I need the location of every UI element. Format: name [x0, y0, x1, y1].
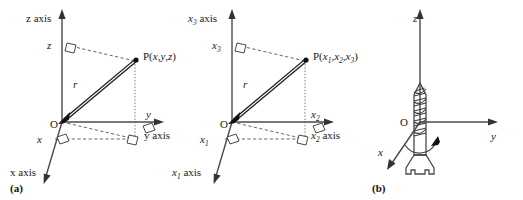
y-axis-arrowhead: [488, 118, 498, 125]
panel-b-screw-rule: z y x O (b): [358, 0, 523, 200]
figure-container: z axis z O r y y axis x x axis P(x,y,z) …: [0, 0, 523, 200]
coord-x1-label: x1: [199, 133, 209, 148]
panel-a-cartesian-letter: z axis z O r y y axis x x axis P(x,y,z) …: [0, 0, 180, 200]
r-vector-inner-highlight: [235, 62, 304, 120]
coord-y-label: y: [145, 108, 151, 120]
coord-z-label: z: [46, 39, 52, 51]
right-angle-marker-xy: [127, 135, 138, 145]
rotation-arrowhead: [431, 136, 440, 146]
x-axis-line: [46, 122, 62, 176]
right-angle-marker-x1: [227, 134, 239, 144]
x1-axis-arrowhead: [214, 174, 221, 184]
x1-axis-line: [216, 122, 232, 176]
r-vector-label: r: [243, 78, 248, 90]
y-axis-label: y axis: [144, 129, 170, 141]
dash-origin-to-xy-projection: [62, 122, 135, 139]
right-angle-marker-x3: [235, 43, 246, 53]
x2-axis-label: x2 axis: [310, 129, 340, 144]
x-axis-line: [392, 122, 420, 163]
screw-head-base: [406, 155, 434, 174]
x3-axis-label: x3 axis: [187, 12, 217, 27]
point-p-marker: [133, 57, 138, 62]
coord-x-label: x: [36, 133, 42, 145]
z-axis-arrowhead: [58, 9, 65, 19]
y-axis-arrowhead: [154, 118, 164, 125]
right-angle-marker-z: [65, 43, 76, 53]
panel-b-svg: z y x O (b): [358, 0, 523, 200]
x2-axis-arrowhead: [324, 118, 334, 125]
panel-a2-svg: x3 axis x3 O r x2 x2 axis x1 x1 axis P(x…: [170, 0, 355, 200]
point-p-label: P(x1,x2,x3): [313, 50, 358, 65]
y-axis-label: y: [490, 130, 496, 142]
rotation-arc: [405, 144, 435, 153]
x-axis-arrowhead: [44, 174, 51, 184]
right-angle-marker-x: [57, 134, 69, 144]
dash-x3-to-point: [236, 45, 305, 61]
coord-x2-label: x2: [310, 108, 320, 123]
z-axis-arrowhead: [416, 9, 423, 19]
point-p-marker: [303, 57, 308, 62]
z-axis-label: z: [412, 12, 418, 24]
panel-a-svg: z axis z O r y y axis x x axis P(x,y,z) …: [0, 0, 180, 200]
dash-z-to-point: [66, 45, 135, 61]
x3-axis-arrowhead: [228, 9, 235, 19]
r-vector-label: r: [73, 78, 78, 90]
origin-label: O: [400, 116, 408, 128]
origin-label: O: [220, 118, 228, 130]
x-axis-label: x axis: [10, 166, 36, 178]
panel-a2-cartesian-indexed: x3 axis x3 O r x2 x2 axis x1 x1 axis P(x…: [170, 0, 355, 200]
coord-x3-label: x3: [211, 39, 221, 54]
right-angle-marker-base: [297, 135, 308, 145]
x1-axis-label: x1 axis: [171, 166, 201, 181]
panel-a-caption: (a): [10, 182, 23, 195]
r-vector-inner-highlight: [65, 62, 134, 120]
origin-label: O: [50, 118, 58, 130]
dash-origin-to-base-projection: [232, 122, 305, 139]
z-axis-label: z axis: [26, 12, 51, 24]
panel-b-caption: (b): [372, 182, 386, 195]
x-axis-label: x: [377, 146, 383, 158]
